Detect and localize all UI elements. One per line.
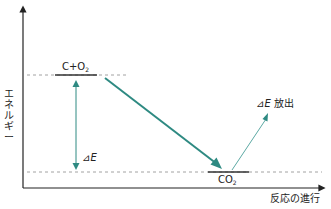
reactant-subscript: 2 <box>85 66 89 73</box>
product-label: CO2 <box>218 175 237 186</box>
delta-var: E <box>90 152 96 163</box>
energy-release-arrow <box>232 113 268 170</box>
reaction-path-arrow <box>105 78 222 169</box>
y-axis-char: ル <box>3 110 15 121</box>
reactant-formula: C+O <box>62 61 85 72</box>
x-axis-label: 反応の進行 <box>270 194 320 204</box>
reactant-label: C+O2 <box>62 62 89 73</box>
y-axis-char: ネ <box>3 99 15 110</box>
y-axis-char: エ <box>3 88 15 99</box>
y-axis-label: エ ネ ル ギ ー <box>3 88 15 143</box>
energy-release-label: ⊿E 放出 <box>256 99 294 109</box>
delta-e-label: ⊿E <box>82 153 97 163</box>
y-axis-char: ー <box>3 132 15 143</box>
product-subscript: 2 <box>233 179 237 186</box>
y-axis-char: ギ <box>3 121 15 132</box>
delta-e-double-arrow <box>73 80 80 170</box>
release-text: 放出 <box>271 98 294 109</box>
product-formula: CO <box>218 174 233 185</box>
